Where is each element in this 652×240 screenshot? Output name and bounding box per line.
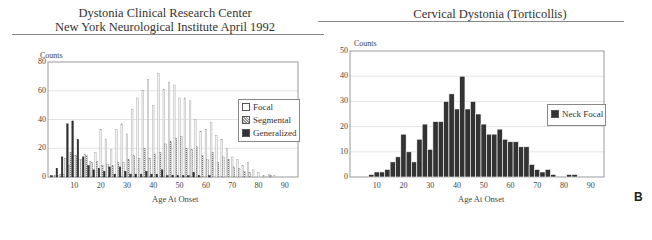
x-tick-label: 10 [68,181,80,190]
x-tick-label: 90 [279,181,291,190]
x-tick-label: 10 [371,181,383,190]
neck-focal-swatch-icon [551,110,559,118]
legend-item-neck-focal: Neck Focal [548,105,605,123]
y-tick-label: 20 [336,122,348,131]
y-tick-label: 30 [336,96,348,105]
left-legend: Focal Segmental Generalized [238,99,300,142]
x-tick-label: 50 [174,181,186,190]
focal-swatch-icon [242,103,250,111]
x-tick-label: 70 [226,181,238,190]
x-tick-label: 80 [558,181,570,190]
x-tick-label: 80 [253,181,265,190]
x-tick-label: 60 [200,181,212,190]
y-tick-label: 50 [336,46,348,55]
x-tick-label: 40 [451,181,463,190]
generalized-swatch-icon [242,129,250,137]
right-legend: Neck Focal [547,104,606,126]
y-tick-label: 10 [336,147,348,156]
y-tick-label: 0 [336,172,348,181]
x-tick-label: 20 [95,181,107,190]
x-tick-label: 70 [531,181,543,190]
right-ylabel: Counts [354,39,377,48]
legend-item-segmental: Segmental [239,113,299,126]
y-tick-label: 20 [34,143,46,152]
x-tick-label: 90 [585,181,597,190]
x-tick-label: 40 [147,181,159,190]
x-tick-label: 30 [121,181,133,190]
legend-item-generalized: Generalized [239,126,299,139]
x-tick-label: 50 [478,181,490,190]
x-tick-label: 30 [424,181,436,190]
y-tick-label: 0 [34,172,46,181]
right-xlabel: Age At Onset [458,194,504,204]
y-tick-label: 40 [34,115,46,124]
x-tick-label: 20 [397,181,409,190]
left-xlabel: Age At Onset [152,194,198,204]
panel-letter: B [634,190,643,204]
y-tick-label: 60 [34,86,46,95]
legend-item-focal: Focal [239,100,299,113]
y-tick-label: 80 [34,57,46,66]
y-tick-label: 40 [336,71,348,80]
segmental-swatch-icon [242,116,250,124]
x-tick-label: 60 [504,181,516,190]
